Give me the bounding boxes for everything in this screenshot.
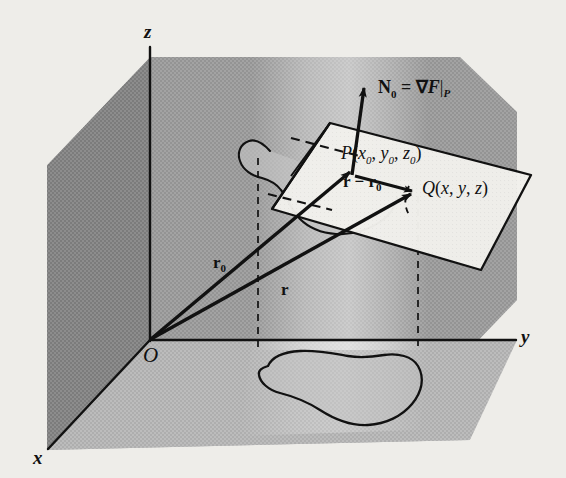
point-label-P: P(x0, y0, z0) (341, 144, 422, 166)
normal-label-func: F (428, 77, 440, 97)
axis-label-x: x (33, 448, 43, 467)
origin-label-O: O (143, 345, 158, 366)
point-P-c2: y (381, 143, 389, 163)
point-P-c3: z (403, 143, 410, 163)
vector-label-r: r (281, 281, 289, 298)
figure-container: z y x O r0 r r − r0 P(x0, y0, z0) Q(x, y… (0, 0, 566, 478)
point-Q-c3: z (475, 178, 482, 198)
diff-label-post-sub: 0 (376, 181, 382, 193)
normal-label-eval-at: P (443, 87, 450, 99)
vector-label-r-minus-r0: r − r0 (343, 173, 381, 193)
point-Q-close: ) (482, 178, 488, 198)
point-Q-c1: x (441, 178, 449, 198)
vector-label-r0: r0 (213, 254, 226, 274)
axis-label-y: y (521, 327, 529, 346)
point-Q-name: Q (422, 178, 435, 198)
point-P-close: ) (416, 143, 422, 163)
diff-label-minus: − (350, 172, 368, 191)
nabla-icon: ∇ (416, 77, 428, 97)
diff-label-post: r (368, 172, 376, 191)
point-Q-sep1: , (449, 178, 458, 198)
normal-vector-label: N0 = ∇F|P (378, 78, 450, 100)
point-P-name: P (341, 143, 352, 163)
point-Q-sep2: , (466, 178, 475, 198)
point-P-c1: x (358, 143, 366, 163)
normal-label-name: N (378, 77, 391, 97)
point-Q-c2: y (458, 178, 466, 198)
point-label-Q: Q(x, y, z) (422, 179, 488, 197)
vector-label-r0-sub: 0 (221, 262, 227, 274)
vector-geometry-svg (0, 0, 566, 478)
vector-label-r-main: r (281, 280, 289, 299)
normal-label-equals: = (397, 77, 416, 97)
point-P-sep1: , (372, 143, 381, 163)
point-P-sep2: , (394, 143, 403, 163)
vector-label-r0-main: r (213, 253, 221, 272)
axis-label-z: z (144, 22, 151, 41)
